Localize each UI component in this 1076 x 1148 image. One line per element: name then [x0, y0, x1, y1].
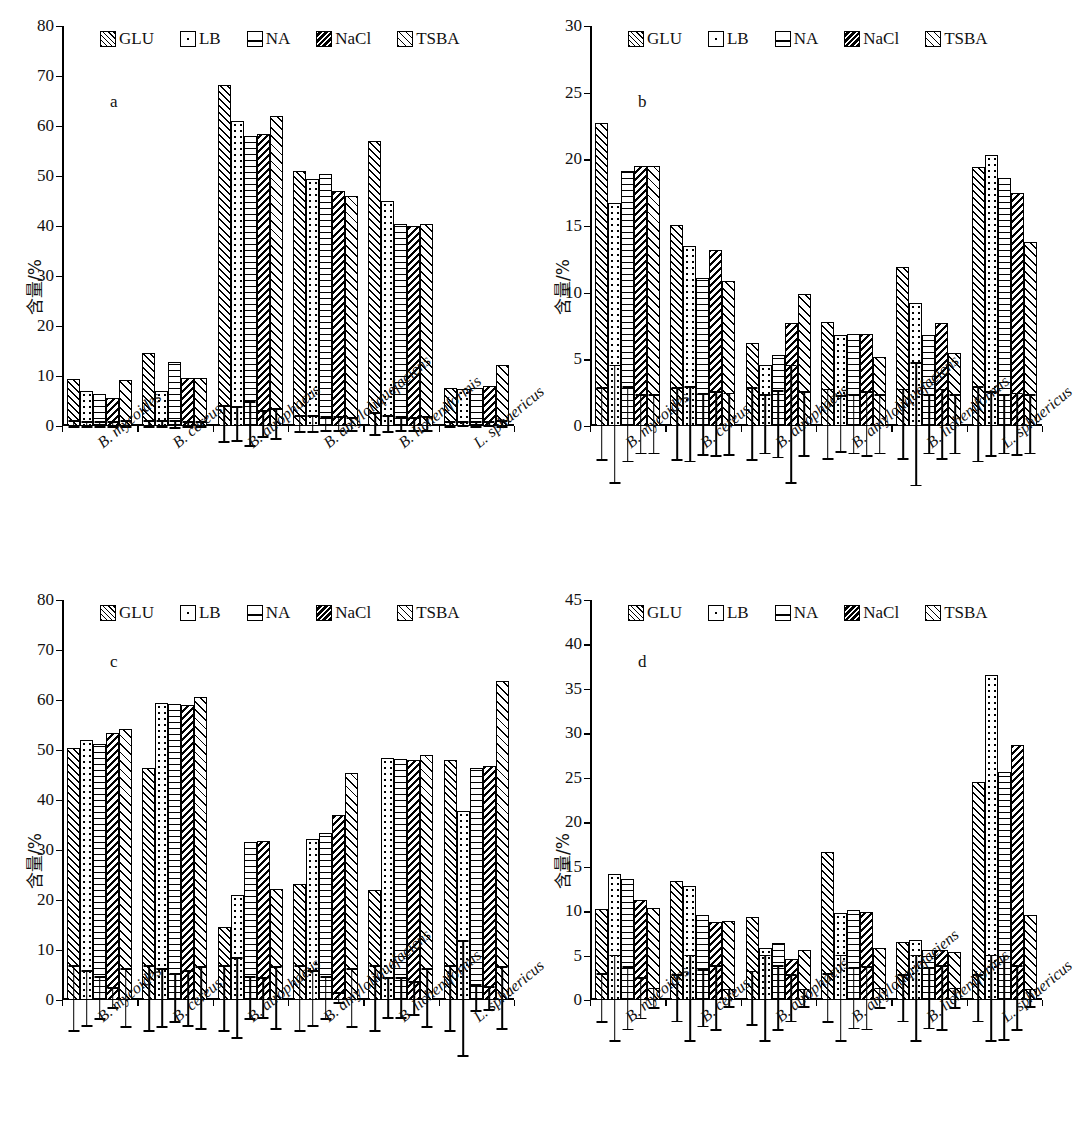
error-cap-upper [874, 394, 885, 396]
plot-area: 01020304050607080 [62, 600, 514, 1000]
plot-area: 051015202530354045 [590, 600, 1042, 1000]
error-cap-upper [609, 955, 620, 957]
bar-group [967, 26, 1042, 426]
bar-slot [683, 26, 696, 426]
bar-na [772, 355, 785, 426]
bar-slot [634, 600, 647, 1000]
bar-slot [785, 600, 798, 1000]
y-tick-label: 25 [565, 768, 582, 788]
error-cap-upper [596, 387, 607, 389]
y-tick-label: 10 [565, 901, 582, 921]
error-cap-upper [861, 966, 872, 968]
error-cap-upper [307, 415, 318, 417]
x-axis-labels: B. mycoidesB. cereusB. atrophaeusB. amyl… [590, 1006, 1042, 1136]
bar-slot [257, 26, 270, 426]
error-cap-upper [107, 987, 118, 989]
plot-area: 01020304050607080 [62, 26, 514, 426]
error-cap-lower [94, 426, 105, 428]
error-cap-upper [458, 421, 469, 423]
y-tick-label: 15 [565, 857, 582, 877]
bar-slot [683, 600, 696, 1000]
error-cap-upper [143, 420, 154, 422]
bar-nacl [407, 226, 420, 426]
chart-panel-c: 含量/%GLULBNANaClTSBAc01020304050607080B. … [0, 574, 528, 1148]
bar-slot [142, 600, 155, 1000]
bar-slot [496, 26, 509, 426]
bar-group [741, 26, 816, 426]
bar-slot [319, 26, 332, 426]
x-tick-mark [1042, 426, 1043, 432]
bar-nacl [332, 815, 345, 1000]
error-cap-upper [1012, 965, 1023, 967]
bar-tsba [420, 224, 433, 427]
y-tick-label: 0 [574, 990, 583, 1010]
error-cap-upper [949, 394, 960, 396]
y-tick-label: 20 [565, 812, 582, 832]
bar-group [741, 600, 816, 1000]
chart-panel-a: 含量/%GLULBNANaClTSBAa01020304050607080B. … [0, 0, 528, 574]
y-tick-label: 80 [37, 16, 54, 36]
bar-slot [847, 600, 860, 1000]
bar-slot [608, 600, 621, 1000]
error-cap-upper [68, 965, 79, 967]
y-tick-label: 20 [37, 890, 54, 910]
error-cap-lower [471, 426, 482, 428]
bar-na [244, 136, 257, 426]
bar-slot [821, 600, 834, 1000]
bar-group [213, 600, 288, 1000]
error-cap-upper [156, 420, 167, 422]
bar-lb [759, 948, 772, 1000]
bar-slot [722, 600, 735, 1000]
bar-slot [381, 26, 394, 426]
y-tick-label: 10 [37, 366, 54, 386]
bar-na [244, 842, 257, 1000]
y-tick-label: 15 [565, 216, 582, 236]
bar-slot [270, 26, 283, 426]
error-cap-lower [81, 426, 92, 428]
bar-tsba [722, 281, 735, 426]
bar-slot [873, 26, 886, 426]
y-tick-label: 50 [37, 740, 54, 760]
bar-slot [709, 600, 722, 1000]
y-tick-label: 30 [565, 16, 582, 36]
bar-nacl [106, 733, 119, 1001]
bar-slot [647, 600, 660, 1000]
bar-slot [181, 26, 194, 426]
bar-slot [785, 26, 798, 426]
bar-nacl [785, 323, 798, 426]
bar-slot [306, 26, 319, 426]
bar-slot [496, 600, 509, 1000]
error-cap-upper [609, 365, 620, 367]
error-cap-upper [697, 393, 708, 395]
error-cap-upper [68, 420, 79, 422]
bar-nacl [257, 841, 270, 1000]
bar-slot [444, 26, 457, 426]
bar-na [319, 833, 332, 1001]
chart-panel-b: 含量/%GLULBNANaClTSBAb051015202530B. mycoi… [528, 0, 1056, 574]
bar-group [665, 600, 740, 1000]
y-tick-label: 20 [565, 149, 582, 169]
bar-slot [798, 26, 811, 426]
bar-lb [683, 886, 696, 1000]
y-tick-label: 60 [37, 116, 54, 136]
bar-slot [332, 600, 345, 1000]
bar-groups [590, 26, 1042, 426]
bar-slot [746, 26, 759, 426]
bar-slot [218, 26, 231, 426]
error-cap-upper [169, 973, 180, 975]
error-cap-lower [458, 425, 469, 427]
bar-group [137, 600, 212, 1000]
bar-glu [67, 748, 80, 1001]
error-cap-upper [1012, 393, 1023, 395]
error-cap-upper [445, 421, 456, 423]
bar-slot [119, 26, 132, 426]
bar-slot [93, 26, 106, 426]
bar-na [696, 278, 709, 426]
error-cap-upper [773, 965, 784, 967]
y-tick-label: 40 [37, 790, 54, 810]
bar-slot [470, 26, 483, 426]
y-tick-label: 40 [565, 634, 582, 654]
error-cap-upper [195, 966, 206, 968]
y-tick-label: 5 [574, 946, 583, 966]
